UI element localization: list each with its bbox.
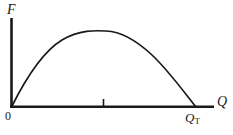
x-intercept-label: QT: [185, 111, 200, 124]
figure-container: F Q 0 QT: [0, 0, 233, 135]
x-intercept-symbol: Q: [185, 110, 194, 125]
y-axis-label: F: [7, 3, 16, 17]
origin-label: 0: [5, 110, 11, 122]
x-intercept-subscript: T: [194, 116, 200, 126]
force-quantity-curve: [12, 31, 197, 107]
x-axis-label: Q: [217, 95, 227, 109]
